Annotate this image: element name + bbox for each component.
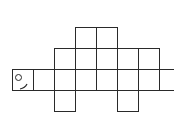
grid-cell	[138, 69, 160, 91]
grid-cell	[159, 69, 174, 91]
grid-cell	[96, 48, 118, 70]
grid-cell	[117, 69, 139, 91]
grid-cell	[54, 90, 76, 112]
grid-cell	[138, 48, 160, 70]
grid-cell	[54, 69, 76, 91]
turtle-grid-diagram	[0, 0, 174, 117]
grid-cell	[54, 48, 76, 70]
grid-cell	[117, 48, 139, 70]
grid-cell	[117, 90, 139, 112]
grid-cell	[33, 69, 55, 91]
grid-cell	[75, 48, 97, 70]
grid-cell	[96, 27, 118, 49]
grid-cell	[75, 27, 97, 49]
mouth-icon	[12, 69, 33, 90]
grid-cell	[75, 69, 97, 91]
grid-cell	[96, 69, 118, 91]
head-cell	[12, 69, 34, 91]
